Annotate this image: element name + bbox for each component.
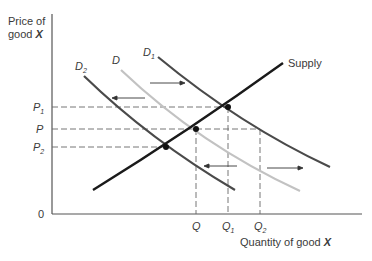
origin-label: 0	[38, 208, 44, 220]
curve-label-d1: D1	[143, 46, 155, 60]
curve-label-d: D	[112, 54, 120, 66]
price-label-p2: P2	[33, 141, 44, 155]
demand-curve-d1	[158, 57, 330, 167]
equilibrium-point-p	[193, 126, 199, 132]
quantity-label-q: Q	[192, 220, 201, 232]
quantity-label-q2: Q2	[254, 220, 267, 234]
price-label-p1: P1	[33, 101, 44, 115]
demand-curve-d2	[84, 76, 235, 190]
supply-demand-diagram: Price of good X Quantity of good X 0 P1 …	[0, 0, 372, 261]
x-axis-label: Quantity of good X	[240, 236, 332, 248]
quantity-label-q1: Q1	[222, 220, 235, 234]
y-axis-label-line2: good X	[8, 28, 44, 40]
price-label-p: P	[36, 123, 44, 135]
equilibrium-point-p1	[225, 104, 231, 110]
guide-lines	[52, 107, 260, 214]
equilibrium-point-p2	[163, 144, 169, 150]
curve-label-d2: D2	[75, 60, 87, 74]
curve-label-supply: Supply	[288, 57, 322, 69]
y-axis-label-line1: Price of	[8, 15, 46, 27]
